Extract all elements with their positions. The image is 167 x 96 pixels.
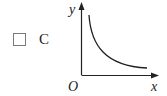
- y-axis-arrow-icon: [79, 2, 85, 10]
- x-axis-label: x: [150, 79, 158, 94]
- x-axis: [82, 73, 160, 79]
- curve: [89, 15, 147, 68]
- y-axis-label: y: [67, 2, 76, 17]
- y-axis: [79, 2, 85, 75]
- graph: y O x: [0, 0, 167, 96]
- x-axis-arrow-icon: [151, 73, 159, 79]
- origin-label: O: [68, 79, 78, 94]
